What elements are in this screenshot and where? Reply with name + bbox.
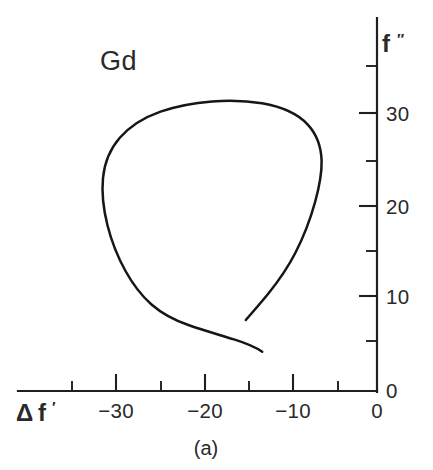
element-label-gd: Gd bbox=[100, 46, 137, 76]
x-tick-label-0: 0 bbox=[371, 399, 383, 422]
y-axis-title: f bbox=[382, 30, 391, 57]
x-tick-label-minus30: −30 bbox=[98, 399, 134, 422]
figure-container: 30 20 10 0 f ″ −30 −20 −10 0 Δ f ′ Gd (a… bbox=[0, 0, 433, 470]
y-tick-label-0: 0 bbox=[386, 379, 398, 402]
y-tick-label-20: 20 bbox=[386, 195, 409, 218]
x-tick-label-minus10: −10 bbox=[275, 399, 311, 422]
anomalous-dispersion-plot: 30 20 10 0 f ″ −30 −20 −10 0 Δ f ′ Gd (a… bbox=[0, 0, 433, 470]
x-axis-title-delta: Δ bbox=[16, 399, 33, 426]
x-tick-label-minus20: −20 bbox=[187, 399, 223, 422]
y-tick-label-30: 30 bbox=[386, 102, 409, 125]
panel-caption: (a) bbox=[194, 437, 218, 459]
x-axis-title-prime: ′ bbox=[52, 398, 56, 415]
gd-dispersion-curve bbox=[103, 101, 322, 352]
x-axis-title-symbol: f bbox=[38, 399, 47, 426]
y-tick-label-10: 10 bbox=[386, 285, 409, 308]
y-axis-title-prime: ″ bbox=[397, 30, 404, 47]
